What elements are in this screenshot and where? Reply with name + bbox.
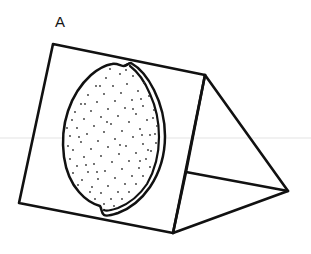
line-drawing-canvas	[0, 0, 311, 254]
figure-panel: A	[0, 0, 311, 254]
panel-label-a: A	[55, 14, 65, 29]
